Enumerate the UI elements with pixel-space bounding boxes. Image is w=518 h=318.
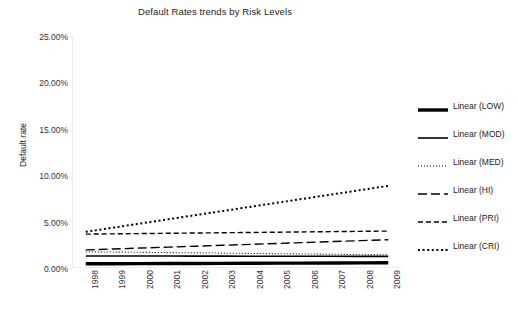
legend-swatch bbox=[418, 101, 448, 111]
chart-legend: Linear (LOW)Linear (MOD)Linear (MED)Line… bbox=[418, 92, 516, 260]
y-tick-label: 10.00% bbox=[22, 171, 68, 181]
legend-swatch bbox=[418, 157, 448, 167]
y-tick-label: 0.00% bbox=[22, 264, 68, 274]
x-tick-label: 2008 bbox=[365, 270, 375, 310]
x-tick-label: 2007 bbox=[337, 270, 347, 310]
legend-swatch bbox=[418, 213, 448, 223]
legend-item[interactable]: Linear (HI) bbox=[418, 176, 516, 204]
legend-item[interactable]: Linear (LOW) bbox=[418, 92, 516, 120]
y-tick-label: 25.00% bbox=[22, 32, 68, 42]
legend-label: Linear (MOD) bbox=[453, 129, 504, 139]
series-lines bbox=[86, 186, 389, 264]
legend-item[interactable]: Linear (MED) bbox=[418, 148, 516, 176]
legend-item[interactable]: Linear (PRI) bbox=[418, 204, 516, 232]
series-line bbox=[86, 263, 389, 264]
x-tick-label: 2002 bbox=[200, 270, 210, 310]
plot-area bbox=[72, 36, 402, 268]
x-tick-label: 2006 bbox=[310, 270, 320, 310]
x-tick-label: 2000 bbox=[145, 270, 155, 310]
series-line bbox=[86, 240, 389, 250]
x-tick-label: 2009 bbox=[392, 270, 402, 310]
y-axis-tick-labels: 25.00% 20.00% 15.00% 10.00% 5.00% 0.00% bbox=[22, 0, 68, 318]
chart-container: Default Rates trends by Risk Levels Defa… bbox=[0, 0, 518, 318]
y-tick-label: 20.00% bbox=[22, 78, 68, 88]
legend-swatch bbox=[418, 241, 448, 251]
x-tick-label: 2005 bbox=[282, 270, 292, 310]
series-line bbox=[86, 252, 389, 255]
legend-swatch bbox=[418, 129, 448, 139]
x-tick-label: 1998 bbox=[90, 270, 100, 310]
x-tick-label: 2001 bbox=[172, 270, 182, 310]
legend-item[interactable]: Linear (MOD) bbox=[418, 120, 516, 148]
y-tick-label: 15.00% bbox=[22, 125, 68, 135]
x-axis-tick-labels: 1998199920002001200220032004200520062007… bbox=[72, 268, 402, 318]
legend-label: Linear (CRI) bbox=[453, 241, 499, 251]
y-tick-label: 5.00% bbox=[22, 218, 68, 228]
series-line bbox=[86, 186, 389, 232]
x-tick-label: 2004 bbox=[255, 270, 265, 310]
legend-label: Linear (LOW) bbox=[453, 101, 504, 111]
x-tick-label: 1999 bbox=[117, 270, 127, 310]
legend-swatch bbox=[418, 185, 448, 195]
x-tick-label: 2003 bbox=[227, 270, 237, 310]
legend-item[interactable]: Linear (CRI) bbox=[418, 232, 516, 260]
series-line bbox=[86, 231, 389, 234]
plot-svg bbox=[72, 36, 402, 268]
legend-label: Linear (PRI) bbox=[453, 213, 499, 223]
legend-label: Linear (HI) bbox=[453, 185, 493, 195]
legend-label: Linear (MED) bbox=[453, 157, 504, 167]
